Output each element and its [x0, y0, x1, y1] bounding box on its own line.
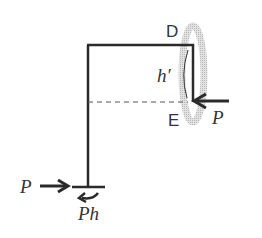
label-moment-Ph: Ph: [77, 203, 99, 224]
frame-diagram: D E h′ P P Ph: [0, 0, 262, 238]
label-E: E: [168, 111, 179, 130]
label-D: D: [166, 22, 178, 41]
label-reaction-P: P: [19, 176, 32, 197]
label-height: h′: [157, 65, 172, 86]
label-load-P: P: [211, 107, 224, 128]
